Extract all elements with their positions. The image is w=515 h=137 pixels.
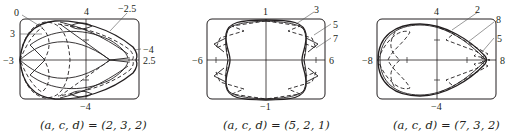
- x-min-label: −8: [362, 55, 373, 66]
- panel-1: 0 3 −2.5 −4 4 −4 −3 2.5 (a, c, d) = (2, …: [3, 3, 156, 132]
- x-max-label: 6: [329, 55, 334, 66]
- y-min-label: −1: [260, 101, 271, 112]
- x-max-label: 2.5: [143, 55, 156, 66]
- curve-label: 7: [333, 33, 338, 44]
- panel-2: 3 5 7 1 −1 −6 6 (a, c, d) = (5, 2, 1): [192, 4, 338, 132]
- curve-label: 3: [314, 4, 319, 15]
- curve-label: 8: [496, 14, 501, 25]
- panel-caption: (a, c, d) = (7, 3, 2): [393, 118, 500, 132]
- y-min-label: −4: [431, 101, 442, 112]
- curve-label: 0: [14, 7, 19, 18]
- panel-3: 2 8 5 4 −4 −8 8 (a, c, d) = (7, 3, 2): [362, 4, 505, 132]
- y-max-label: 1: [263, 6, 268, 17]
- panel-caption: (a, c, d) = (5, 2, 1): [223, 118, 330, 132]
- curve-label: −2.5: [118, 3, 136, 14]
- curve-label: −4: [143, 44, 154, 55]
- curve-label: 5: [333, 19, 338, 30]
- y-max-label: 4: [84, 6, 89, 17]
- panel-caption: (a, c, d) = (2, 3, 2): [40, 118, 147, 132]
- curve-label: 2: [475, 4, 480, 15]
- x-min-label: −3: [3, 55, 14, 66]
- curve-label: 5: [497, 33, 502, 44]
- y-max-label: 4: [434, 6, 439, 17]
- x-min-label: −6: [192, 55, 203, 66]
- x-max-label: 8: [500, 55, 505, 66]
- y-min-label: −4: [80, 101, 91, 112]
- curve-label: 3: [10, 28, 15, 39]
